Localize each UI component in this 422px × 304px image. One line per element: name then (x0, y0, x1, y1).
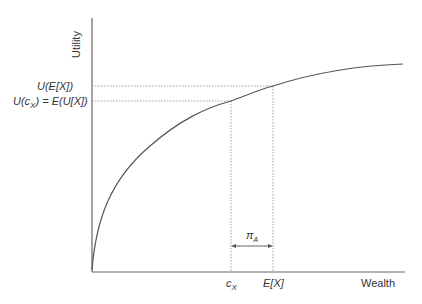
cx-label: cX (226, 277, 237, 292)
arrow-right-head (268, 244, 273, 248)
utility-diagram (0, 0, 422, 304)
u-cx-post: ) = E(U[X]) (35, 95, 87, 107)
arrow-left-head (231, 244, 236, 248)
utility-text: Utility (70, 31, 82, 58)
wealth-text: Wealth (361, 277, 395, 289)
y-axis-label: Utility (70, 31, 82, 58)
x-axis-label: Wealth (361, 277, 395, 289)
u-cx-pre: U(c (13, 95, 30, 107)
pi-label: πA (246, 229, 258, 243)
ex-text: E[X] (263, 277, 284, 289)
ex-label: E[X] (263, 277, 284, 289)
cx-sub: X (232, 283, 237, 292)
u-cx-label: U(cX) = E(U[X]) (13, 95, 88, 110)
pi-sub: A (253, 236, 258, 243)
u-ex-label: U(E[X]) (37, 80, 73, 92)
u-ex-text: U(E[X]) (37, 80, 73, 92)
